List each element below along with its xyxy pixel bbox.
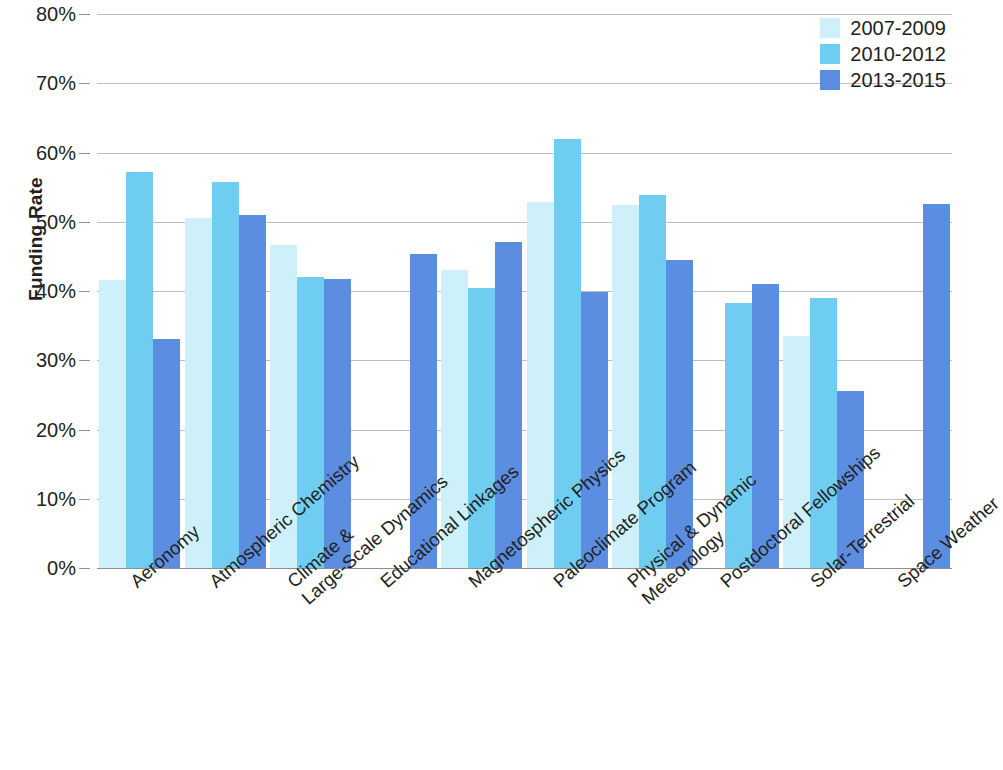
y-tick-label: 30%	[36, 350, 76, 370]
legend-label: 2010-2012	[850, 44, 946, 64]
y-tick-label: 70%	[36, 73, 76, 93]
x-axis-tick-labels: AeronomyAtmospheric ChemistryClimate &La…	[97, 568, 952, 768]
bar-group	[183, 14, 269, 568]
y-tick-mark	[79, 291, 90, 292]
y-tick-label: 60%	[36, 143, 76, 163]
bar	[212, 182, 239, 568]
legend: 2007-20092010-20122013-2015	[820, 18, 946, 90]
bar	[581, 292, 608, 568]
bar	[495, 242, 522, 568]
y-tick-mark	[79, 153, 90, 154]
legend-swatch	[820, 44, 840, 64]
y-tick-label: 10%	[36, 489, 76, 509]
bar-group	[867, 14, 953, 568]
legend-label: 2007-2009	[850, 18, 946, 38]
y-tick-mark	[79, 568, 90, 569]
y-tick-label: 0%	[47, 558, 76, 578]
bar	[239, 215, 266, 568]
y-tick-mark	[79, 360, 90, 361]
bar	[410, 254, 437, 568]
bar	[99, 280, 126, 568]
y-axis-tick-labels: 0%10%20%30%40%50%60%70%80%	[0, 14, 90, 568]
legend-item: 2010-2012	[820, 44, 946, 64]
y-tick-label: 20%	[36, 420, 76, 440]
y-tick-label: 40%	[36, 281, 76, 301]
y-tick-mark	[79, 222, 90, 223]
bar	[468, 288, 495, 568]
y-tick-mark	[79, 14, 90, 15]
bar	[923, 204, 950, 568]
y-tick-mark	[79, 430, 90, 431]
legend-swatch	[820, 70, 840, 90]
y-tick-label: 80%	[36, 4, 76, 24]
bar-group	[97, 14, 183, 568]
legend-swatch	[820, 18, 840, 38]
legend-item: 2013-2015	[820, 70, 946, 90]
y-tick-label: 50%	[36, 212, 76, 232]
bar	[185, 218, 212, 568]
legend-label: 2013-2015	[850, 70, 946, 90]
y-tick-mark	[79, 83, 90, 84]
bar	[810, 298, 837, 568]
y-tick-mark	[79, 499, 90, 500]
bar	[126, 172, 153, 568]
bar	[297, 277, 324, 568]
legend-item: 2007-2009	[820, 18, 946, 38]
